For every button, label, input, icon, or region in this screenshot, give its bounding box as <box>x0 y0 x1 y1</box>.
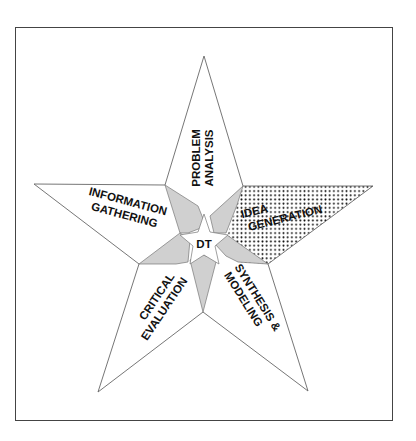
design-thinking-star: DT PROBLEM ANALYSIS IDEA GENERATION SYNT… <box>0 0 416 441</box>
label-problem-analysis: PROBLEM ANALYSIS <box>190 129 215 187</box>
center-label: DT <box>196 238 211 250</box>
kite-left <box>139 233 190 264</box>
svg-text:PROBLEM: PROBLEM <box>190 129 202 187</box>
svg-text:ANALYSIS: ANALYSIS <box>203 129 215 186</box>
label-synthesis-modeling: SYNTHESIS & MODELING <box>221 262 283 340</box>
label-information-gathering: INFORMATION GATHERING <box>84 185 168 231</box>
label-critical-evaluation: CRITICAL EVALUATION <box>128 268 190 343</box>
kite-bottom <box>190 254 218 312</box>
